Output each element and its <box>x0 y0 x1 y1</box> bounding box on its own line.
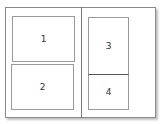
layout-box-4: 4 <box>88 74 129 110</box>
box-label: 1 <box>41 34 47 44</box>
box-label: 4 <box>106 87 112 97</box>
layout-box-3: 3 <box>88 17 129 75</box>
layout-box-1: 1 <box>12 16 75 62</box>
box-label: 3 <box>106 41 112 51</box>
layout-box-2: 2 <box>11 64 74 110</box>
box-label: 2 <box>40 82 46 92</box>
column-divider <box>81 7 82 118</box>
